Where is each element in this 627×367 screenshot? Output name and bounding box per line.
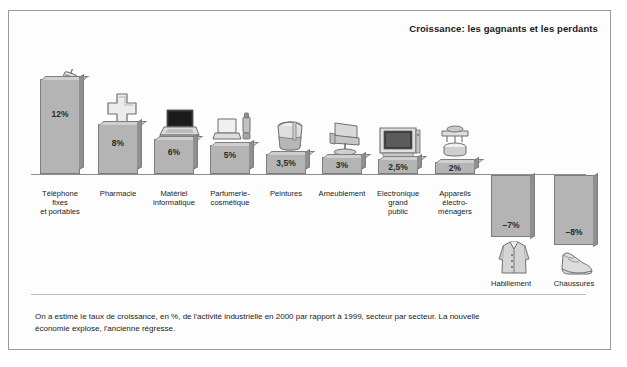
coat-icon	[491, 239, 537, 283]
chart-frame: Croissance: les gagnants et les perdants…	[8, 10, 611, 350]
bar-value-peintures: 3,5%	[266, 158, 306, 168]
bar-label-electronique: Electroniquegrandpublic	[367, 189, 429, 217]
bar-pharmacie	[98, 124, 138, 174]
bar-label-telephone: Téléphonefixeset portables	[29, 189, 91, 217]
bar-label-chaussures: Chaussures	[543, 279, 605, 288]
bar-label-parfumerie: Parfumerie-cosmétique	[199, 189, 261, 207]
bar-value-electronique: 2,5%	[378, 162, 418, 172]
bar-telephone	[40, 79, 80, 174]
bar-value-chaussures: –8%	[554, 227, 594, 237]
bar-label-pharmacie: Pharmacie	[87, 189, 149, 198]
bar-value-parfumerie: 5%	[210, 150, 250, 160]
bar-label-ameublement: Ameublement	[311, 189, 373, 198]
bar-value-materiel-informatique: 6%	[154, 147, 194, 157]
chart-caption: On a estimé le taux de croissance, en %,…	[35, 311, 515, 334]
bar-label-habillement: Habillement	[480, 279, 542, 288]
shoe-icon	[554, 247, 600, 283]
bar-value-habillement: –7%	[491, 220, 531, 230]
bar-label-appareils: Appareilsélectro-ménagers	[424, 189, 486, 217]
bar-label-peintures: Peintures	[255, 189, 317, 198]
caption-divider	[31, 294, 586, 295]
bar-value-pharmacie: 8%	[98, 138, 138, 148]
bar-value-ameublement: 3%	[322, 160, 362, 170]
bar-label-materiel-informatique: Matérielinformatique	[143, 189, 205, 207]
bar-value-appareils: 2%	[435, 163, 475, 173]
bar-value-telephone: 12%	[40, 109, 80, 119]
plot-area: 12% Téléphonefixeset portables 8% Pharma…	[9, 11, 612, 351]
caption-line-1: On a estimé le taux de croissance, en %,…	[35, 312, 364, 321]
